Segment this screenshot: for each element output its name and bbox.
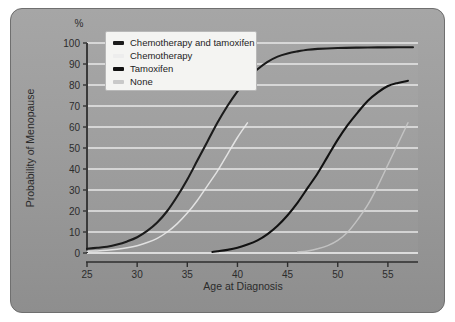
x-tick-label: 50 — [332, 269, 344, 280]
x-axis-tick-labels: 25303540455055 — [81, 269, 393, 280]
y-axis-title: Probability of Menopause — [24, 89, 36, 208]
x-tick-label: 45 — [282, 269, 294, 280]
y-tick-label: 30 — [69, 185, 81, 196]
figure-frame: 0102030405060708090100 25303540455055 % … — [10, 8, 445, 313]
legend-item: Chemotherapy — [113, 49, 250, 62]
y-tick-label: 60 — [69, 122, 81, 133]
legend-swatch-icon — [113, 41, 124, 45]
legend-swatch-icon — [113, 67, 124, 71]
legend-item: Chemotherapy and tamoxifen — [113, 36, 250, 49]
legend-item: None — [113, 75, 250, 88]
legend-swatch-icon — [113, 80, 124, 84]
x-tick-label: 55 — [382, 269, 394, 280]
x-tick-label: 25 — [81, 269, 93, 280]
y-tick-label: 10 — [69, 227, 81, 238]
y-axis-unit-label: % — [75, 18, 84, 29]
y-tick-label: 90 — [69, 59, 81, 70]
legend-item-label: None — [130, 75, 153, 88]
y-tick-label: 50 — [69, 143, 81, 154]
y-axis-tick-labels: 0102030405060708090100 — [63, 38, 80, 259]
legend-item-label: Chemotherapy — [130, 49, 192, 62]
x-tick-label: 40 — [232, 269, 244, 280]
x-tick-label: 30 — [132, 269, 144, 280]
legend-item: Tamoxifen — [113, 62, 250, 75]
y-tick-label: 40 — [69, 164, 81, 175]
y-tick-label: 20 — [69, 206, 81, 217]
legend-item-label: Chemotherapy and tamoxifen — [130, 36, 255, 49]
y-tick-label: 0 — [74, 248, 80, 259]
legend-item-label: Tamoxifen — [130, 62, 173, 75]
y-tick-label: 80 — [69, 80, 81, 91]
x-tick-label: 35 — [182, 269, 194, 280]
y-tick-label: 70 — [69, 101, 81, 112]
x-axis-title: Age at Diagnosis — [203, 280, 282, 292]
y-tick-label: 100 — [63, 38, 80, 49]
chart-legend: Chemotherapy and tamoxifen Chemotherapy … — [105, 31, 257, 91]
legend-swatch-icon — [113, 54, 124, 58]
